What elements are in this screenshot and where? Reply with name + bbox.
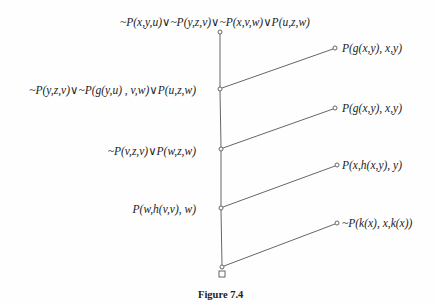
resolvent-1-label: ~P(y,z,v)∨~P(g(y,u) , v,w)∨P(u,z,w) [29, 84, 196, 96]
node-circle [218, 87, 222, 91]
side-clause-2-label: P(g(x,y), x,y) [342, 102, 402, 114]
side-edge [223, 166, 335, 207]
side-clause-3-label: P(x,h(x,y), y) [342, 159, 402, 171]
side-edge [222, 49, 333, 88]
figure-caption: Figure 7.4 [198, 289, 243, 300]
resolvent-3-label: P(w,h(v,v), w) [133, 203, 196, 215]
empty-clause-box [219, 271, 225, 277]
node-circle [335, 163, 339, 167]
side-edge [223, 109, 333, 148]
resolvent-2-label: ~P(v,z,v)∨P(w,z,w) [108, 145, 196, 157]
node-circle [333, 46, 337, 50]
node-circle [335, 221, 339, 225]
node-circle [219, 206, 223, 210]
spine-edge [221, 210, 222, 265]
figure-canvas: ~P(x,y,u)∨~P(y,z,v)∨~P(x,v,w)∨P(u,z,w) ~… [0, 0, 434, 304]
side-clause-1-label: P(g(x,y), x,y) [342, 42, 402, 54]
node-circle [219, 147, 223, 151]
node-circle [333, 106, 337, 110]
root-clause-label: ~P(x,y,u)∨~P(y,z,v)∨~P(x,v,w)∨P(u,z,w) [120, 16, 310, 28]
node-circle [218, 30, 222, 34]
spine-edge [220, 91, 221, 147]
node-circle [220, 265, 224, 269]
side-clause-4-label: ~P(k(x), x,k(x)) [342, 217, 412, 229]
side-edge [224, 224, 335, 266]
